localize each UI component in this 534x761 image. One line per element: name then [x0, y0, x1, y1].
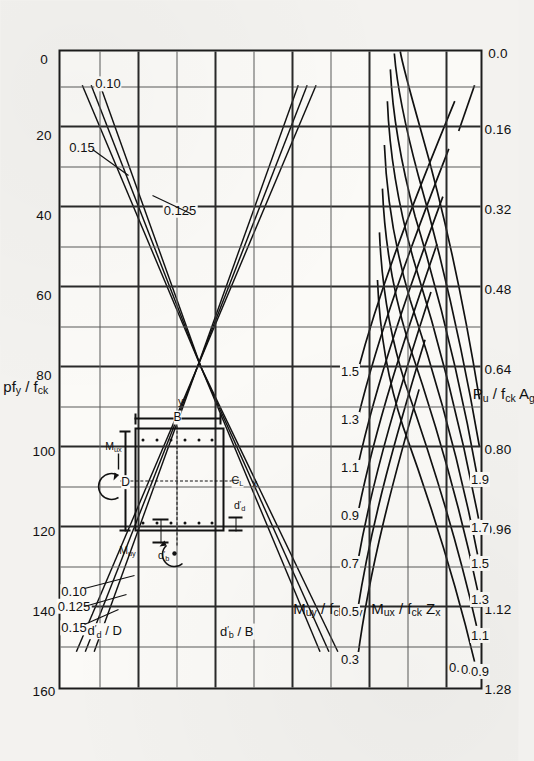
top-axis-label: pfy / fck: [3, 377, 48, 396]
column-section-inset: D B d′b d′d Mux: [104, 385, 254, 565]
bottom-tick-6: 0.32: [484, 202, 511, 217]
mux-curve-label-1-1: 1.1: [469, 627, 489, 642]
column-outline: [134, 427, 224, 531]
plot-area: [58, 49, 482, 689]
top-tick-0: 160: [32, 684, 55, 699]
dd-value-0-10: 0.10: [60, 584, 87, 599]
axis-x-letter: x: [251, 476, 256, 488]
bottom-tick-5: 0.48: [484, 282, 511, 297]
centerline-symbol: CL: [231, 473, 243, 487]
top-tick-2: 120: [32, 524, 55, 539]
grid-line-horizontal: [176, 51, 177, 687]
bottom-tick-4: 0.64: [484, 362, 511, 377]
grid-line-horizontal: [291, 51, 293, 687]
rebar-dot: [197, 438, 200, 441]
grid-line-horizontal: [214, 51, 216, 687]
grid-line-vertical: [60, 566, 480, 567]
mux-curves: [377, 51, 479, 661]
rebar-dot: [183, 521, 186, 524]
edge-kink: [458, 85, 474, 131]
muy-curve-label-0-7: 0.7: [339, 555, 359, 570]
top-tick-5: 60: [36, 288, 51, 303]
top-tick-8: 0: [40, 52, 48, 67]
grid-line-horizontal: [368, 51, 370, 687]
axis-y-letter: y: [177, 394, 182, 406]
muy-curve-label-1-3: 1.3: [339, 411, 359, 426]
grid-line-horizontal: [445, 51, 447, 687]
db-over-B-label: d′b / B: [218, 623, 254, 639]
mux-curve-label-1-5: 1.5: [469, 555, 489, 570]
grid-line-vertical: [60, 326, 480, 327]
rebar-dot: [169, 438, 172, 441]
dimension-D-tick-right: [119, 430, 130, 432]
grid-line-vertical: [60, 205, 480, 207]
db-value-0-15: 0.15: [68, 140, 95, 155]
top-tick-3: 100: [32, 444, 55, 459]
grid-line-vertical: [60, 365, 480, 367]
grid-line-vertical: [60, 125, 480, 127]
dd-value-0-125: 0.125: [56, 598, 91, 613]
rebar-dot: [141, 438, 144, 441]
dimension-B-tick-bot: [219, 413, 221, 424]
rebar-dot: [155, 438, 158, 441]
rebar-dot: [141, 521, 144, 524]
grid-line-vertical: [60, 246, 480, 247]
muy-curves: [357, 101, 454, 658]
bottom-axis-label: Pu / fck Ag: [472, 385, 534, 404]
grid-line-vertical: [60, 285, 480, 287]
mux-curve-label-1-3: 1.3: [469, 591, 489, 606]
dd-value-0-15: 0.15: [60, 620, 87, 635]
grid-line-vertical: [60, 646, 480, 647]
bottom-tick-3: 0.80: [484, 442, 511, 457]
muy-curve-label-0-9: 0.9: [339, 507, 359, 522]
rebar-dot: [155, 521, 158, 524]
grid-line-horizontal: [99, 51, 100, 687]
dd-over-D-label: d′d / D: [86, 623, 122, 639]
muy-curve-label-0-5: 0.5: [339, 603, 359, 618]
grid-line-horizontal: [407, 51, 408, 687]
db-value-0-125: 0.125: [162, 202, 197, 217]
mux-axis-label: Mux / fck Zx: [371, 599, 440, 618]
rebar-dot: [183, 438, 186, 441]
dimension-B-tick-top: [134, 413, 136, 424]
rebar-dot: [169, 521, 172, 524]
grid-line-horizontal: [330, 51, 331, 687]
mux-curve-label-1-7: 1.7: [469, 519, 489, 534]
rebar-dot: [197, 521, 200, 524]
muy-moment-arrow: [152, 525, 196, 569]
mux-curve-label-0-9: 0.9: [469, 663, 489, 678]
bottom-tick-7: 0.16: [484, 122, 511, 137]
muy-label: Muy: [119, 544, 136, 558]
muy-curve-label-1-1: 1.1: [339, 459, 359, 474]
rebar-dot: [210, 521, 213, 524]
top-tick-6: 40: [36, 208, 51, 223]
top-tick-7: 20: [36, 128, 51, 143]
dimension-B-label: B: [173, 410, 181, 424]
grid-line-vertical: [60, 86, 480, 87]
ddash-d-label: d′d: [233, 498, 244, 512]
muy-curve-label-1-5: 1.5: [339, 363, 359, 378]
mux-label: Mux: [105, 440, 122, 454]
grid-line-vertical: [60, 166, 480, 167]
rebar-dot: [210, 438, 213, 441]
muy-curve-label-0-3: 0.3: [339, 651, 359, 666]
ddash-d-arrow: [235, 517, 236, 531]
bottom-tick-0: 1.28: [484, 682, 511, 697]
dimension-D-tick-left: [119, 529, 130, 531]
mux-curve-label-1-9: 1.9: [469, 471, 489, 486]
grid-line-horizontal: [253, 51, 254, 687]
bottom-tick-8: 0.0: [488, 46, 507, 61]
grid-line-horizontal: [137, 51, 139, 687]
top-tick-1: 140: [32, 604, 55, 619]
db-value-0-10: 0.10: [94, 76, 121, 91]
vertical-centerline: [120, 480, 242, 481]
curve-layer: [60, 51, 480, 687]
